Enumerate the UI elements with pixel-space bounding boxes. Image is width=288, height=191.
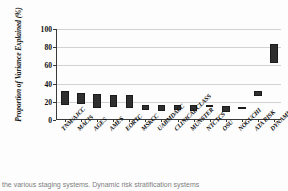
x-tick-mark bbox=[161, 119, 162, 122]
x-tick-mark bbox=[97, 119, 98, 122]
bar-ntctcs bbox=[206, 105, 214, 108]
y-tick-label: 20 bbox=[30, 97, 52, 106]
plot-area bbox=[56, 29, 281, 120]
gridline bbox=[57, 84, 281, 85]
y-tick-mark bbox=[53, 120, 56, 121]
gridline bbox=[57, 47, 281, 48]
x-tick-mark bbox=[145, 119, 146, 122]
gridline bbox=[57, 29, 281, 30]
bar-ata-risk bbox=[254, 91, 262, 96]
x-tick-label: OSU bbox=[220, 118, 234, 132]
bar-osu bbox=[222, 106, 230, 111]
bar-munster bbox=[190, 105, 198, 110]
x-tick-mark bbox=[210, 119, 211, 122]
gridline bbox=[57, 102, 281, 103]
x-tick-mark bbox=[194, 119, 195, 122]
bar-mskcc bbox=[142, 105, 150, 110]
bar-uabmdacc bbox=[158, 105, 166, 111]
bar-tnm-ajcc bbox=[61, 91, 69, 105]
x-tick-mark bbox=[129, 119, 130, 122]
y-axis-title: Proportion of Variance Explained (%) bbox=[14, 5, 23, 125]
y-tick-label: 80 bbox=[30, 43, 52, 52]
bar-ames bbox=[110, 95, 118, 108]
bar-ages bbox=[93, 94, 101, 109]
x-tick-mark bbox=[274, 119, 275, 122]
x-tick-mark bbox=[65, 119, 66, 122]
caption-text: the various staging systems. Dynamic ris… bbox=[2, 182, 199, 188]
y-tick-label: 40 bbox=[30, 79, 52, 88]
y-tick-label: 0 bbox=[30, 116, 52, 125]
x-tick-mark bbox=[226, 119, 227, 122]
bar-noguchi bbox=[238, 107, 246, 109]
bar-macis bbox=[77, 93, 85, 104]
x-tick-mark bbox=[258, 119, 259, 122]
x-tick-mark bbox=[242, 119, 243, 122]
x-tick-mark bbox=[81, 119, 82, 122]
y-tick-label: 60 bbox=[30, 61, 52, 70]
gridline bbox=[57, 65, 281, 66]
bar-eortc bbox=[126, 95, 134, 109]
figure-container: Proportion of Variance Explained (%) 020… bbox=[0, 0, 288, 191]
x-tick-mark bbox=[178, 119, 179, 122]
bar-dynamic-risk bbox=[270, 44, 278, 62]
figure-caption: the various staging systems. Dynamic ris… bbox=[0, 182, 288, 191]
x-tick-mark bbox=[113, 119, 114, 122]
bar-clinical-class bbox=[174, 105, 182, 110]
y-tick-label: 100 bbox=[30, 25, 52, 34]
